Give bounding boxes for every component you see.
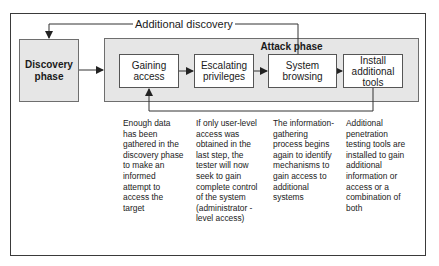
step-label: Escalating privileges bbox=[195, 60, 253, 82]
description-system-browsing: The information-gathering process begins… bbox=[273, 118, 335, 203]
step-install-additional-tools: Install additional tools bbox=[343, 54, 403, 88]
description-escalating-privileges: If only user-level access was obtained i… bbox=[196, 118, 262, 224]
step-gaining-access: Gaining access bbox=[119, 54, 179, 88]
step-label: Install additional tools bbox=[344, 55, 402, 88]
description-gaining-access: Enough data has been gathered in the dis… bbox=[123, 118, 185, 213]
additional-discovery-label: Additional discovery bbox=[133, 17, 235, 31]
step-escalating-privileges: Escalating privileges bbox=[194, 54, 254, 88]
feedback-loop-line bbox=[149, 88, 373, 111]
step-label: Gaining access bbox=[120, 60, 178, 82]
step-label: System browsing bbox=[269, 60, 336, 82]
description-install-additional-tools: Additional penetration testing tools are… bbox=[346, 118, 414, 213]
step-system-browsing: System browsing bbox=[268, 54, 337, 88]
